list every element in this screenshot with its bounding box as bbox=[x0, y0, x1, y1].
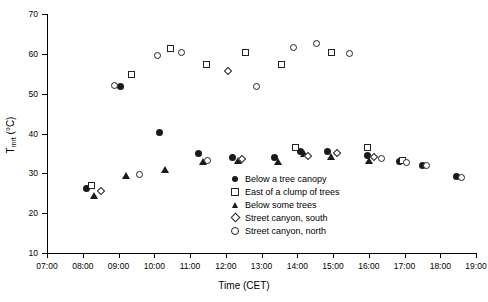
data-point bbox=[423, 162, 430, 169]
chart-legend: Below a tree canopyEast of a clump of tr… bbox=[228, 172, 340, 237]
x-tick-mark bbox=[440, 253, 441, 258]
data-point bbox=[161, 166, 169, 173]
legend-item: Street canyon, south bbox=[228, 211, 340, 224]
x-tick-mark bbox=[119, 253, 120, 258]
data-point bbox=[290, 44, 297, 51]
x-tick-mark bbox=[154, 253, 155, 258]
data-point bbox=[223, 67, 231, 75]
y-tick-mark bbox=[42, 54, 47, 55]
data-point bbox=[136, 171, 143, 178]
y-tick-label: 40 bbox=[16, 129, 38, 139]
y-tick-label: 60 bbox=[16, 49, 38, 59]
data-point bbox=[292, 144, 299, 151]
data-point bbox=[90, 192, 98, 199]
data-point bbox=[304, 152, 312, 160]
x-tick-label: 09:00 bbox=[99, 261, 139, 271]
data-point bbox=[346, 50, 353, 57]
y-tick-mark bbox=[42, 14, 47, 15]
diamond-open-icon bbox=[228, 214, 242, 221]
y-axis-line bbox=[47, 14, 48, 254]
data-point bbox=[88, 182, 95, 189]
x-axis-title: Time (CET) bbox=[0, 280, 488, 291]
data-point bbox=[242, 49, 249, 56]
data-point bbox=[378, 155, 385, 162]
data-point bbox=[167, 45, 174, 52]
data-point bbox=[253, 83, 260, 90]
y-tick-mark bbox=[42, 134, 47, 135]
legend-item-label: Below a tree canopy bbox=[242, 174, 327, 184]
data-point bbox=[96, 187, 104, 195]
y-axis-title-unit: (°C) bbox=[5, 117, 16, 138]
x-tick-label: 13:00 bbox=[242, 261, 282, 271]
x-tick-label: 18:00 bbox=[420, 261, 460, 271]
chart-container: 10203040506070 07:0008:0009:0010:0011:00… bbox=[0, 0, 488, 302]
x-tick-label: 16:00 bbox=[349, 261, 389, 271]
x-tick-label: 15:00 bbox=[313, 261, 353, 271]
circle-open-icon bbox=[228, 227, 242, 235]
x-tick-mark bbox=[333, 253, 334, 258]
data-point bbox=[128, 71, 135, 78]
y-tick-label: 30 bbox=[16, 168, 38, 178]
data-point bbox=[274, 158, 282, 165]
legend-item: Street canyon, north bbox=[228, 224, 340, 237]
data-point bbox=[313, 40, 320, 47]
legend-item: Below some trees bbox=[228, 198, 340, 211]
x-tick-label: 12:00 bbox=[206, 261, 246, 271]
x-tick-mark bbox=[226, 253, 227, 258]
legend-item-label: Street canyon, north bbox=[242, 226, 326, 236]
x-tick-label: 08:00 bbox=[63, 261, 103, 271]
x-tick-label: 19:00 bbox=[456, 261, 488, 271]
y-tick-mark bbox=[42, 173, 47, 174]
y-tick-mark bbox=[42, 213, 47, 214]
legend-item: East of a clump of trees bbox=[228, 185, 340, 198]
legend-item-label: Street canyon, south bbox=[242, 213, 328, 223]
data-point bbox=[204, 157, 211, 164]
data-point bbox=[178, 49, 185, 56]
x-tick-mark bbox=[83, 253, 84, 258]
data-point bbox=[403, 159, 410, 166]
data-point bbox=[364, 144, 371, 151]
y-tick-label: 10 bbox=[16, 248, 38, 258]
x-tick-label: 07:00 bbox=[27, 261, 67, 271]
x-tick-mark bbox=[476, 253, 477, 258]
legend-item-label: East of a clump of trees bbox=[242, 187, 340, 197]
y-axis-title: Tmrt (°C) bbox=[2, 60, 18, 210]
data-point bbox=[154, 52, 161, 59]
x-tick-label: 10:00 bbox=[134, 261, 174, 271]
data-point bbox=[278, 61, 285, 68]
data-point bbox=[156, 129, 163, 136]
legend-item-label: Below some trees bbox=[242, 200, 317, 210]
data-point bbox=[203, 61, 210, 68]
x-tick-mark bbox=[262, 253, 263, 258]
x-tick-label: 17:00 bbox=[385, 261, 425, 271]
x-tick-mark bbox=[369, 253, 370, 258]
x-tick-mark bbox=[47, 253, 48, 258]
y-tick-label: 70 bbox=[16, 9, 38, 19]
x-tick-mark bbox=[297, 253, 298, 258]
legend-item: Below a tree canopy bbox=[228, 172, 340, 185]
y-tick-label: 50 bbox=[16, 89, 38, 99]
y-axis-title-sub: mrt bbox=[10, 137, 17, 147]
data-point bbox=[328, 49, 335, 56]
y-axis-title-main: T bbox=[5, 147, 16, 153]
x-tick-mark bbox=[190, 253, 191, 258]
y-tick-label: 20 bbox=[16, 208, 38, 218]
y-tick-mark bbox=[42, 94, 47, 95]
x-tick-mark bbox=[405, 253, 406, 258]
x-tick-label: 14:00 bbox=[277, 261, 317, 271]
tri-filled-icon bbox=[228, 202, 242, 208]
circle-filled-icon bbox=[228, 176, 242, 182]
square-open-icon bbox=[228, 188, 242, 196]
x-tick-label: 11:00 bbox=[170, 261, 210, 271]
data-point bbox=[195, 150, 202, 157]
data-point bbox=[122, 172, 130, 179]
data-point bbox=[458, 174, 465, 181]
